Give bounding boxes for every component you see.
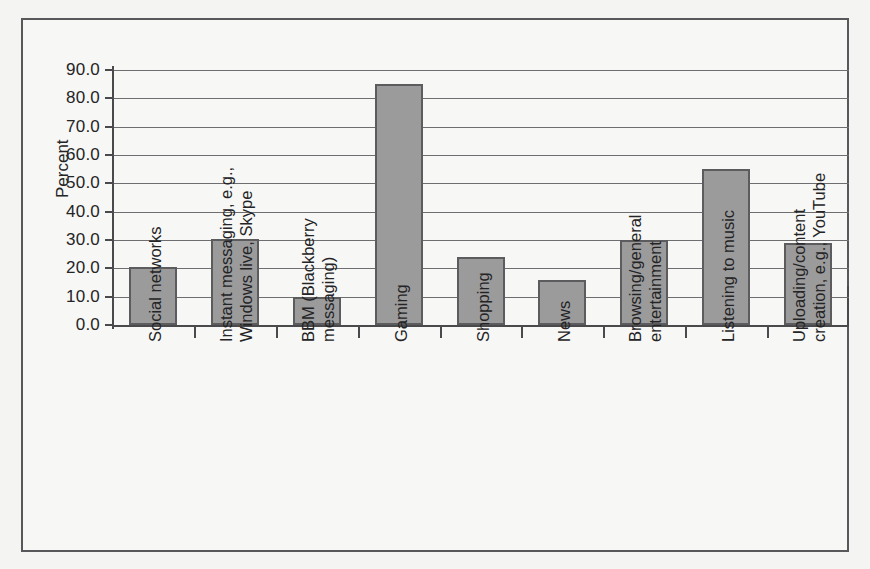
gridline: [114, 98, 849, 99]
y-axis-tick-label: 10.0: [66, 287, 100, 307]
x-category-label: Listening to music: [718, 210, 738, 342]
y-axis-tick: [105, 126, 113, 128]
x-category-label: News: [554, 301, 574, 342]
y-axis-tick: [105, 324, 113, 326]
x-category-label: BBM (Blackberry messaging): [298, 218, 338, 342]
y-axis-tick-label: 30.0: [66, 230, 100, 250]
y-axis-tick: [105, 69, 113, 71]
y-axis-tick-label: 60.0: [66, 145, 100, 165]
y-axis-tick-label: 20.0: [66, 258, 100, 278]
x-axis-tick: [767, 327, 769, 338]
gridline: [114, 70, 849, 71]
x-axis-tick: [194, 327, 196, 338]
figure-canvas: Percent 90.080.070.060.050.040.030.020.0…: [0, 0, 870, 569]
y-axis-tick: [105, 296, 113, 298]
gridline: [114, 127, 849, 128]
y-axis-tick: [105, 182, 113, 184]
x-axis-tick: [685, 327, 687, 338]
x-axis-tick: [358, 327, 360, 338]
y-axis-tick-label: 90.0: [66, 60, 100, 80]
y-axis-tick-label: 50.0: [66, 173, 100, 193]
plot-right-edge: [847, 286, 849, 327]
y-axis-line: [112, 66, 114, 329]
y-axis-tick: [105, 154, 113, 156]
x-axis-tick: [521, 327, 523, 338]
y-axis-tick: [105, 211, 113, 213]
x-category-label: Instant messaging, e.g., Windows live, S…: [216, 167, 256, 342]
x-category-label: Shopping: [473, 272, 493, 342]
y-axis-tick-label: 80.0: [66, 88, 100, 108]
x-category-label: Uploading/content creation, e.g., YouTub…: [789, 173, 829, 342]
x-axis-tick: [603, 327, 605, 338]
x-category-label: Gaming: [391, 284, 411, 342]
y-axis-tick: [105, 97, 113, 99]
y-axis-tick-label: 40.0: [66, 202, 100, 222]
y-axis-tick: [105, 239, 113, 241]
y-axis-tick: [105, 267, 113, 269]
x-category-label: Social networks: [145, 226, 165, 342]
x-axis-tick: [276, 327, 278, 338]
x-category-label: Browsing/general entertainment: [625, 215, 665, 343]
chart-frame: Percent 90.080.070.060.050.040.030.020.0…: [21, 18, 849, 552]
y-axis-tick-label: 70.0: [66, 117, 100, 137]
x-axis-tick: [440, 327, 442, 338]
gridline: [114, 155, 849, 156]
y-axis-tick-label: 0.0: [76, 315, 100, 335]
